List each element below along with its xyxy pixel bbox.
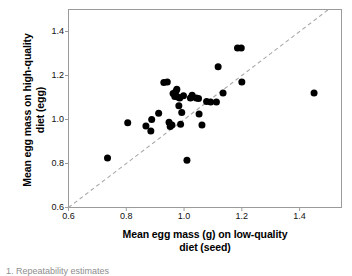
data-point bbox=[155, 110, 162, 117]
x-tick-label: 0.8 bbox=[111, 212, 141, 221]
y-tick-label: 0.8 bbox=[40, 159, 64, 168]
data-point bbox=[213, 98, 220, 105]
data-point bbox=[173, 86, 180, 93]
data-point bbox=[198, 122, 205, 129]
y-tick-label: 1.0 bbox=[40, 115, 64, 124]
data-point bbox=[238, 45, 245, 52]
x-tick-label: 1.4 bbox=[285, 212, 315, 221]
x-tick-label: 1.2 bbox=[227, 212, 257, 221]
one-to-one-line bbox=[69, 10, 329, 208]
x-tick-label: 0.6 bbox=[54, 212, 84, 221]
scatter-plot-figure: Mean egg mass on high-quality diet (egg)… bbox=[0, 0, 352, 276]
data-point bbox=[195, 95, 202, 102]
y-axis-tick-labels: 0.60.81.01.21.4 bbox=[38, 0, 64, 276]
x-axis-tick-labels: 0.60.81.01.21.4 bbox=[0, 212, 352, 226]
figure-caption-partial: 1. Repeatability estimates bbox=[6, 266, 346, 276]
data-point bbox=[124, 119, 131, 126]
data-point bbox=[177, 121, 184, 128]
y-tick-label: 0.6 bbox=[40, 203, 64, 212]
data-point bbox=[311, 90, 318, 97]
y-tick-label: 1.4 bbox=[40, 27, 64, 36]
data-point bbox=[168, 122, 175, 129]
data-point bbox=[196, 111, 203, 118]
data-point bbox=[148, 116, 155, 123]
data-point bbox=[180, 92, 187, 99]
y-tick-label: 1.2 bbox=[40, 71, 64, 80]
data-point bbox=[238, 79, 245, 86]
x-tick-label: 1.0 bbox=[169, 212, 199, 221]
data-point bbox=[183, 157, 190, 164]
axes-frame bbox=[69, 10, 342, 208]
data-point bbox=[220, 90, 227, 97]
x-axis-title: Mean egg mass (g) on low-quality diet (s… bbox=[68, 228, 342, 254]
data-point bbox=[164, 79, 171, 86]
data-point bbox=[215, 63, 222, 70]
data-point bbox=[104, 155, 111, 162]
data-point bbox=[147, 127, 154, 134]
data-point bbox=[175, 102, 182, 109]
data-point bbox=[178, 109, 185, 116]
data-points bbox=[104, 45, 318, 164]
